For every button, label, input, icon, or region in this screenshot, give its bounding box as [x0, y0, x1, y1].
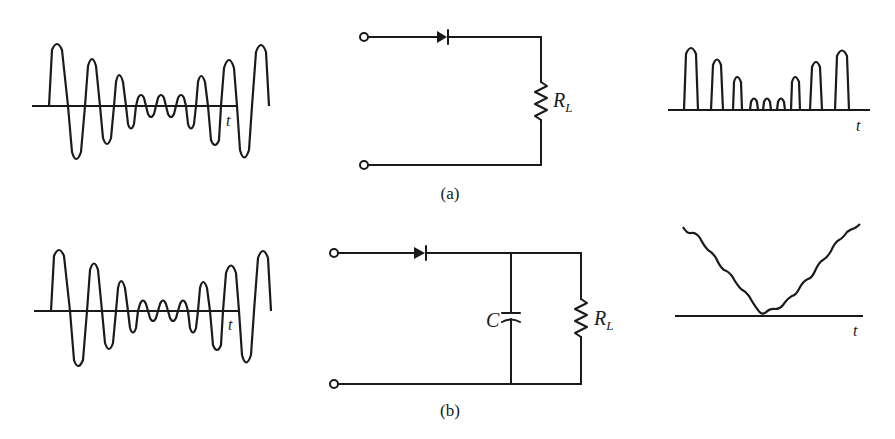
- envelope-detector-figure: t RL (a) t t: [0, 0, 895, 439]
- envelope-output-b: [683, 224, 860, 314]
- rectified-pulses-a: [684, 48, 849, 110]
- circuit-b: C RL (b): [330, 246, 613, 420]
- input-terminal-top-b: [330, 249, 338, 257]
- input-terminal-top-a: [360, 33, 368, 41]
- diode-icon: [414, 246, 426, 260]
- input-waveform-a: t: [32, 44, 269, 159]
- time-label-output-a: t: [856, 117, 861, 134]
- resistor-icon: [575, 299, 587, 337]
- am-signal-a: [49, 44, 269, 159]
- capacitor-label: C: [486, 309, 500, 331]
- resistor-icon: [535, 82, 547, 120]
- diode-icon: [437, 30, 448, 44]
- am-signal-b: [51, 250, 271, 366]
- resistor-label-a: RL: [552, 89, 572, 115]
- output-waveform-a: t: [668, 48, 870, 134]
- time-label-output-b: t: [853, 322, 858, 339]
- time-label-input-b: t: [228, 316, 233, 333]
- input-terminal-bottom-a: [360, 161, 368, 169]
- resistor-label-b: RL: [593, 307, 613, 333]
- caption-a: (a): [441, 184, 460, 203]
- input-terminal-bottom-b: [330, 380, 338, 388]
- time-label-input-a: t: [226, 112, 231, 129]
- caption-b: (b): [440, 401, 460, 420]
- output-waveform-b: t: [675, 224, 863, 339]
- circuit-a: RL (a): [360, 30, 572, 203]
- input-waveform-b: t: [34, 250, 271, 366]
